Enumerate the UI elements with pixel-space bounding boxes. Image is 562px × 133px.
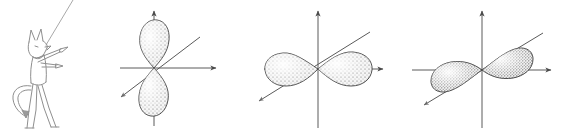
figure-canvas: p_z p_x — [0, 0, 562, 133]
orbital-figure-svg: p_z p_x — [0, 0, 562, 133]
